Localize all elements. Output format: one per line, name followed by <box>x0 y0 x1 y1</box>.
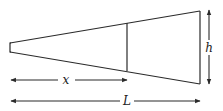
narrow-end-edge <box>10 43 11 52</box>
top-edge <box>10 11 200 43</box>
tapered-shape <box>10 11 200 84</box>
label-x: x <box>63 73 70 87</box>
label-h: h <box>205 41 213 55</box>
dimension-L: L <box>11 94 200 108</box>
label-L: L <box>122 94 131 108</box>
bottom-edge <box>10 52 200 84</box>
dimension-h: h <box>205 10 213 84</box>
dimension-x: x <box>11 73 127 87</box>
diagram-canvas: x L h <box>0 0 223 111</box>
